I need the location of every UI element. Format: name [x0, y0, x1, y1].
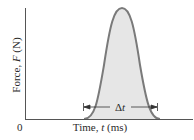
x-axis-label: Time, t (ms) — [73, 122, 127, 133]
plot-area — [0, 0, 194, 140]
delta-t-label: Δt — [113, 102, 127, 113]
force-time-diagram: Force, F (N) 0 Time, t (ms) Δt — [0, 0, 194, 140]
arrowhead-left-icon — [84, 105, 90, 109]
y-axis-label: Force, F (N) — [11, 37, 22, 92]
arrowhead-right-icon — [151, 105, 157, 109]
origin-label: 0 — [17, 122, 23, 133]
